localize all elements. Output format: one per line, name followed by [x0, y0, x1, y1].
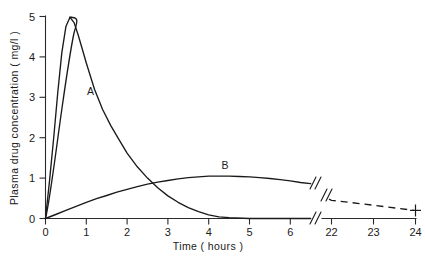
y-tick-label-0: 0: [29, 213, 35, 225]
x-tick-label-24: 24: [409, 226, 421, 238]
y-tick-label-1: 1: [29, 172, 35, 184]
series-a-curve: [46, 17, 77, 218]
y-tick-label-4: 4: [29, 51, 35, 63]
series-b-break-marker: [310, 177, 321, 189]
x-tick-label-1: 1: [83, 226, 89, 238]
x-tick-label-0: 0: [42, 226, 48, 238]
x-axis-ticks: [46, 219, 416, 225]
y-axis-ticks: [40, 17, 46, 219]
x-tick-label-6: 6: [287, 226, 293, 238]
x-tick-label-4: 4: [206, 226, 212, 238]
series-a-label: A: [87, 85, 94, 97]
series-b-label: B: [221, 159, 228, 171]
y-tick-label-5: 5: [29, 11, 35, 23]
x-tick-label-23: 23: [367, 226, 379, 238]
pharmacokinetic-plot: 0 1 2 3 4 5 0 1 2 3 4 5 6 22 23 24 Time …: [0, 0, 425, 262]
x-tick-label-22: 22: [325, 226, 337, 238]
x-tick-label-5: 5: [246, 226, 252, 238]
x-axis-title: Time ( hours ): [173, 240, 244, 252]
series-a-curve-main: [46, 17, 311, 218]
x-tick-label-3: 3: [165, 226, 171, 238]
y-tick-label-2: 2: [29, 132, 35, 144]
series-b-curve-dashed: [329, 199, 414, 210]
y-axis-title: Plasma drug concentration ( mg/l ): [8, 31, 20, 205]
x-axis-break-marker: [310, 212, 321, 224]
series-b-curve-solid: [46, 176, 311, 218]
y-tick-label-3: 3: [29, 91, 35, 103]
x-tick-label-2: 2: [124, 226, 130, 238]
series-b-end-cap: [410, 205, 421, 217]
